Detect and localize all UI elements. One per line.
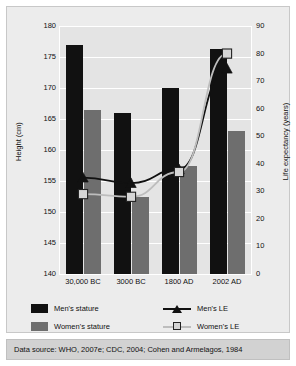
y-axis-left-tick-label: 170: [25, 84, 56, 92]
y-axis-right-tick: 40: [256, 160, 280, 168]
y-axis-right-tick: 70: [256, 77, 280, 85]
y-axis-left-tick: 155: [25, 177, 56, 185]
legend-swatch-icon: [31, 304, 48, 313]
chart-legend: Men's statureWomen's statureMen's LEWome…: [31, 301, 275, 335]
y-axis-left-tick-label: 165: [25, 115, 56, 123]
y-axis-right-tick-label: 30: [256, 187, 280, 195]
marker-men-le: [222, 64, 232, 74]
legend-item[interactable]: Women's stature: [31, 319, 110, 334]
x-axis-category-label: 30,000 BC: [59, 277, 107, 289]
y-axis-right-tick-label: 0: [256, 270, 280, 278]
y-axis-right-tick-label: 50: [256, 132, 280, 140]
chart-card: 180175170165160155150145140 908070605040…: [6, 6, 290, 333]
chart-figure: 180175170165160155150145140 908070605040…: [0, 0, 296, 366]
legend-label: Women's stature: [54, 322, 110, 331]
legend-line-marker-icon: [163, 321, 191, 332]
y-axis-left-tick: 180: [25, 22, 56, 30]
y-axis-left-tick-label: 155: [25, 177, 56, 185]
y-axis-left-line: [59, 26, 60, 275]
legend-label: Men's LE: [197, 304, 228, 313]
legend-item[interactable]: Men's LE: [163, 301, 228, 316]
y-axis-right-tick: 10: [256, 242, 280, 250]
x-axis-category-label: 1800 AD: [155, 277, 203, 289]
y-axis-left-tick-label: 180: [25, 22, 56, 30]
legend-line-marker-icon: [163, 303, 191, 314]
triangle-marker-icon: [172, 305, 182, 313]
line-men-le: [83, 69, 227, 183]
y-axis-right-tick-label: 60: [256, 105, 280, 113]
marker-women-le: [126, 192, 135, 201]
legend-label: Men's stature: [54, 304, 99, 313]
x-axis-line: [59, 274, 252, 275]
y-axis-left-tick: 170: [25, 84, 56, 92]
y-axis-left-tick-label: 175: [25, 53, 56, 61]
y-axis-left-tick-label: 145: [25, 239, 56, 247]
square-marker-icon: [173, 322, 181, 330]
y-axis-right-tick-label: 90: [256, 22, 280, 30]
legend-swatch-icon: [31, 322, 48, 331]
legend-label: Women's LE: [197, 322, 239, 331]
source-bar: Data source: WHO, 2007e; CDC, 2004; Cohe…: [6, 339, 290, 360]
y-axis-right-line: [251, 26, 252, 275]
y-axis-right-tick: 0: [256, 270, 280, 278]
marker-women-le: [174, 167, 183, 176]
legend-item[interactable]: Women's LE: [163, 319, 239, 334]
y-axis-left-title: Height (cm): [14, 107, 23, 177]
y-axis-right-tick: 90: [256, 22, 280, 30]
y-axis-left-tick: 145: [25, 239, 56, 247]
y-axis-left-tick: 165: [25, 115, 56, 123]
source-text: Data source: WHO, 2007e; CDC, 2004; Cohe…: [14, 345, 242, 354]
x-axis-category-label: 2002 AD: [203, 277, 251, 289]
plot-area: [59, 26, 251, 274]
y-axis-right-tick: 80: [256, 50, 280, 58]
line-series-overlay: [59, 26, 251, 274]
y-axis-right-tick: 20: [256, 215, 280, 223]
y-axis-left-tick: 140: [25, 270, 56, 278]
x-axis-category-labels: 30,000 BC3000 BC1800 AD2002 AD: [59, 277, 251, 289]
y-axis-left-tick: 160: [25, 146, 56, 154]
y-axis-right-tick: 50: [256, 132, 280, 140]
y-axis-left-tick-label: 160: [25, 146, 56, 154]
y-axis-left-tick-label: 140: [25, 270, 56, 278]
y-axis-left-tick: 175: [25, 53, 56, 61]
y-axis-right-tick: 30: [256, 187, 280, 195]
marker-women-le: [222, 49, 231, 58]
x-axis-category-label: 3000 BC: [107, 277, 155, 289]
marker-women-le: [78, 190, 87, 199]
y-axis-right-tick-label: 70: [256, 77, 280, 85]
y-axis-right-tick-label: 10: [256, 242, 280, 250]
y-axis-left-tick: 150: [25, 208, 56, 216]
y-axis-left-tick-label: 150: [25, 208, 56, 216]
y-axis-right-tick-label: 20: [256, 215, 280, 223]
legend-item[interactable]: Men's stature: [31, 301, 99, 316]
y-axis-right-tick-label: 80: [256, 50, 280, 58]
y-axis-right-title: Life expectancy (years): [281, 96, 290, 188]
y-axis-right-tick-label: 40: [256, 160, 280, 168]
y-axis-right-tick: 60: [256, 105, 280, 113]
